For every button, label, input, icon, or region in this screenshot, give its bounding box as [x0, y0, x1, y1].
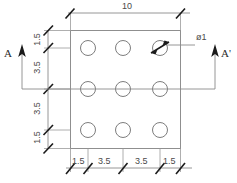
bottom-dimension-label-3: 1.5 [163, 157, 176, 166]
bottom-dimension-label-1: 3.5 [98, 157, 111, 166]
bottom-dimension-label-2: 3.5 [135, 157, 148, 166]
plate-outline [71, 31, 181, 149]
hole-r3c1 [81, 123, 96, 138]
left-dimension-group [44, 26, 71, 154]
hole-callout-leader [151, 41, 195, 55]
top-dimension-group [66, 9, 191, 31]
hole-r1c2 [116, 41, 131, 56]
hole-r3c2 [116, 123, 131, 138]
section-label-left: A [4, 48, 12, 59]
hole-r3c3 [153, 123, 168, 138]
hole-r1c1 [81, 41, 96, 56]
top-dimension-label: 10 [122, 2, 132, 11]
left-dimension-label-0: 1.5 [33, 31, 42, 49]
section-label-right: A' [221, 48, 231, 59]
top-tick-left [66, 9, 75, 19]
left-dimension-label-2: 3.5 [33, 100, 42, 118]
left-dimension-label-1: 3.5 [33, 59, 42, 77]
drawing-canvas [0, 0, 237, 183]
bottom-dimension-label-0: 1.5 [72, 157, 85, 166]
hole-callout-label: ø1 [196, 33, 207, 42]
left-dimension-label-3: 1.5 [33, 129, 42, 147]
engineering-drawing: 10 ø1 A A' 1.5 3.5 3.5 1.5 1.5 3.5 3.5 1… [0, 0, 237, 183]
